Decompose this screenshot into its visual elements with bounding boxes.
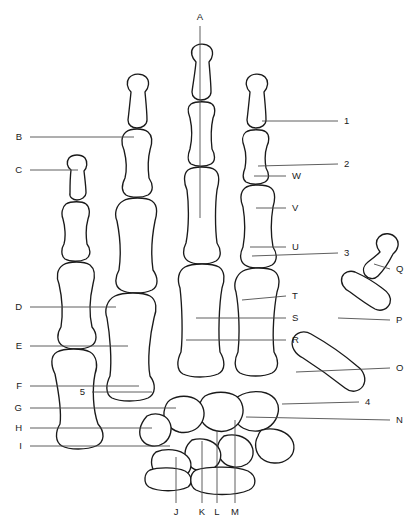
bone-outlines xyxy=(52,44,398,494)
forearm-bones-group xyxy=(145,467,255,494)
label-h[interactable]: H xyxy=(15,422,22,433)
little-distal-phalanx xyxy=(67,155,87,200)
middle-finger-group xyxy=(235,74,279,376)
carpal-pisiform xyxy=(140,414,171,446)
carpal-lunate xyxy=(199,392,243,431)
label-g[interactable]: G xyxy=(15,402,22,413)
label-d[interactable]: D xyxy=(15,301,22,312)
label-w[interactable]: W xyxy=(292,170,301,181)
middle-metacarpal xyxy=(235,268,279,376)
label-r[interactable]: R xyxy=(292,334,299,345)
callout-4: 4 xyxy=(282,396,370,407)
thumb-metacarpal xyxy=(292,332,365,391)
label-u[interactable]: U xyxy=(292,241,299,252)
radius-distal-end xyxy=(191,467,255,494)
label-1[interactable]: 1 xyxy=(344,115,349,126)
little-proximal-phalanx xyxy=(57,262,96,349)
hand-skeleton-figure: A BCDEF5GHI 12WVU3QTSPRO4N JKLM xyxy=(0,0,419,529)
middle-distal-phalanx xyxy=(246,74,267,128)
carpal-trapezium xyxy=(256,429,294,463)
ring-finger-group xyxy=(106,74,157,401)
label-n[interactable]: N xyxy=(396,414,403,425)
label-3[interactable]: 3 xyxy=(344,247,349,258)
label-p[interactable]: P xyxy=(396,314,402,325)
ring-middle-phalanx xyxy=(122,129,152,197)
label-i[interactable]: I xyxy=(19,440,22,451)
label-c[interactable]: C xyxy=(15,164,22,175)
label-q[interactable]: Q xyxy=(396,263,403,274)
label-4[interactable]: 4 xyxy=(365,396,370,407)
leader-line-4 xyxy=(282,402,359,404)
callout-b: B xyxy=(16,131,134,142)
label-s[interactable]: S xyxy=(292,312,298,323)
leader-line-p xyxy=(338,318,390,320)
hand-skeleton-diagram: A BCDEF5GHI 12WVU3QTSPRO4N JKLM xyxy=(0,0,419,529)
little-middle-phalanx xyxy=(62,202,90,262)
leader-line-2 xyxy=(258,164,338,166)
little-metacarpal xyxy=(52,349,103,449)
label-m[interactable]: M xyxy=(231,506,239,517)
index-finger-group xyxy=(178,44,224,377)
label-v[interactable]: V xyxy=(292,202,299,213)
callout-p: P xyxy=(338,314,402,325)
label-e[interactable]: E xyxy=(16,340,22,351)
label-a[interactable]: A xyxy=(197,11,204,22)
index-middle-phalanx xyxy=(188,102,215,167)
label-j[interactable]: J xyxy=(174,506,179,517)
ulna-distal-end xyxy=(145,468,191,491)
label-b[interactable]: B xyxy=(16,131,22,142)
ring-proximal-phalanx xyxy=(116,198,157,293)
thumb-distal-phalanx xyxy=(364,234,399,279)
label-f[interactable]: F xyxy=(16,380,22,391)
ring-metacarpal xyxy=(106,293,156,401)
ring-distal-phalanx xyxy=(127,74,148,128)
callout-1: 1 xyxy=(262,115,349,126)
callout-2: 2 xyxy=(258,158,349,169)
index-distal-phalanx xyxy=(192,44,213,100)
label-l[interactable]: L xyxy=(214,506,219,517)
index-metacarpal xyxy=(178,264,224,377)
index-proximal-phalanx xyxy=(184,167,221,264)
label-k[interactable]: K xyxy=(199,506,206,517)
thumb-proximal-phalanx xyxy=(341,271,390,310)
label-2[interactable]: 2 xyxy=(344,158,349,169)
label-t[interactable]: T xyxy=(292,290,298,301)
label-o[interactable]: O xyxy=(396,362,403,373)
little-finger-group xyxy=(52,155,103,449)
label-5[interactable]: 5 xyxy=(80,386,85,397)
